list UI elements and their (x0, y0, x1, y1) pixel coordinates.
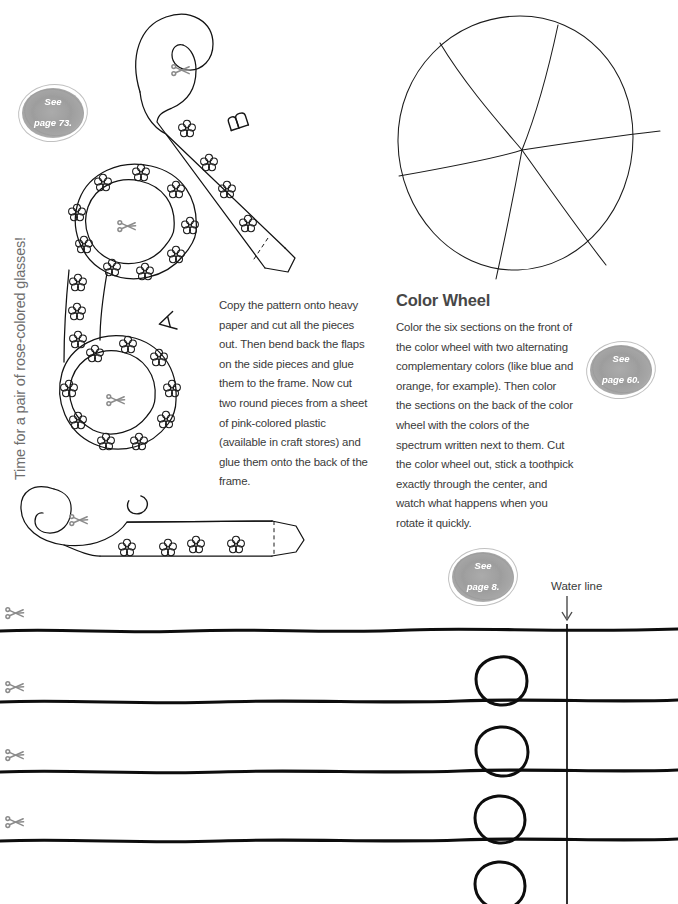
scissors-icon (6, 608, 24, 619)
arrow-down-icon (562, 596, 572, 620)
piece-label-c (126, 495, 151, 517)
piece-label-a (157, 312, 177, 333)
scissors-icon (6, 750, 24, 761)
color-wheel-diagram (398, 16, 660, 279)
water-line-strips (0, 596, 678, 904)
color-wheel-instructions-text: Color the six sections on the front of t… (396, 318, 574, 534)
see-page-badge-73[interactable]: See page 73. (22, 88, 84, 138)
glasses-instructions-text: Copy the pattern onto heavy paper and cu… (219, 296, 369, 492)
see-badge-line2: page 8. (467, 582, 500, 593)
glasses-frame-piece (60, 164, 199, 449)
color-wheel-heading: Color Wheel (396, 291, 490, 310)
see-badge-line1: See (602, 354, 640, 365)
scissors-icon (70, 515, 88, 526)
page-canvas: Time for a pair of rose-colored glasses! (0, 0, 678, 904)
see-badge-line2: page 73. (34, 118, 72, 129)
water-line-label: Water line (551, 580, 602, 592)
glasses-temple-piece-b (136, 14, 295, 272)
see-badge-line1: See (467, 561, 500, 572)
scissors-icon (107, 395, 125, 406)
scissors-icon (118, 221, 136, 232)
see-badge-line1: See (34, 97, 72, 108)
scissors-icon (6, 817, 24, 828)
see-page-badge-8[interactable]: See page 8. (452, 552, 514, 602)
see-page-badge-60[interactable]: See page 60. (590, 345, 652, 395)
scissors-icon (6, 682, 24, 693)
piece-label-b (227, 112, 248, 131)
glasses-temple-piece-c (21, 487, 304, 556)
see-badge-line2: page 60. (602, 375, 640, 386)
scissors-icon (172, 65, 190, 76)
